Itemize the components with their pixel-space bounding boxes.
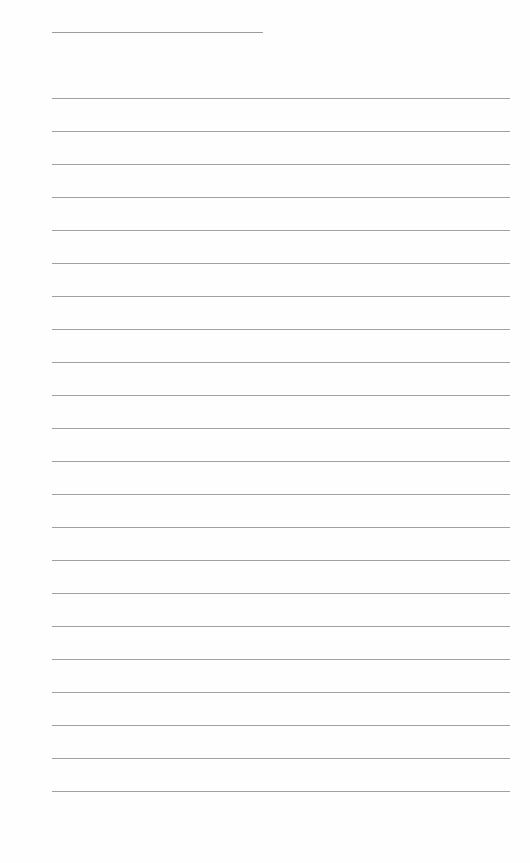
ruled-line xyxy=(52,791,510,792)
ruled-line xyxy=(52,329,510,330)
ruled-line xyxy=(52,560,510,561)
ruled-line xyxy=(52,230,510,231)
ruled-line xyxy=(52,725,510,726)
ruled-line xyxy=(52,593,510,594)
ruled-line xyxy=(52,758,510,759)
ruled-line xyxy=(52,362,510,363)
ruled-line xyxy=(52,395,510,396)
ruled-line xyxy=(52,659,510,660)
ruled-line xyxy=(52,692,510,693)
ruled-line xyxy=(52,164,510,165)
ruled-line xyxy=(52,296,510,297)
ruled-line xyxy=(52,131,510,132)
ruled-line xyxy=(52,527,510,528)
notebook-page xyxy=(0,0,530,863)
ruled-line xyxy=(52,428,510,429)
ruled-line xyxy=(52,263,510,264)
ruled-line xyxy=(52,98,510,99)
ruled-line xyxy=(52,626,510,627)
title-line xyxy=(52,32,263,33)
ruled-line xyxy=(52,197,510,198)
ruled-line xyxy=(52,494,510,495)
ruled-line xyxy=(52,461,510,462)
